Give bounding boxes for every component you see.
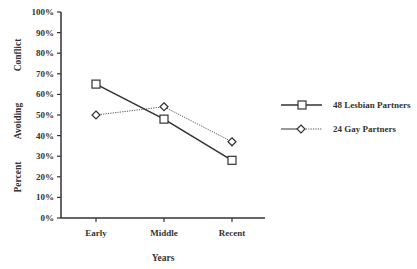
x-tick-label: Middle bbox=[150, 228, 178, 238]
line-chart: 0%10%20%30%40%50%60%70%80%90%100% EarlyM… bbox=[0, 0, 417, 269]
y-tick-label: 90% bbox=[36, 28, 54, 38]
diamond-marker-icon bbox=[228, 138, 236, 146]
y-axis-title-part-3: Conflict bbox=[13, 38, 23, 72]
diamond-marker-icon bbox=[160, 103, 168, 111]
square-marker-icon bbox=[160, 115, 168, 123]
y-tick-label: 20% bbox=[36, 172, 54, 182]
y-tick-label: 70% bbox=[36, 69, 54, 79]
y-tick-label: 100% bbox=[32, 7, 55, 17]
y-ticks: 0%10%20%30%40%50%60%70%80%90%100% bbox=[32, 7, 62, 223]
y-tick-label: 50% bbox=[36, 110, 54, 120]
y-axis-title-part-2: Avoiding bbox=[13, 103, 23, 140]
x-tick-label: Recent bbox=[219, 228, 246, 238]
diamond-marker-icon bbox=[297, 125, 305, 133]
x-tick-label: Early bbox=[85, 228, 107, 238]
legend-label-gay: 24 Gay Partners bbox=[333, 124, 396, 134]
diamond-marker-icon bbox=[92, 111, 100, 119]
x-ticks: EarlyMiddleRecent bbox=[85, 218, 245, 238]
y-tick-label: 30% bbox=[36, 151, 54, 161]
y-tick-label: 0% bbox=[41, 213, 55, 223]
y-tick-label: 60% bbox=[36, 89, 54, 99]
series-line-gay bbox=[96, 107, 232, 142]
square-marker-icon bbox=[228, 156, 236, 164]
y-tick-label: 40% bbox=[36, 131, 54, 141]
legend-label-lesbian: 48 Lesbian Partners bbox=[333, 100, 411, 110]
legend: 48 Lesbian Partners 24 Gay Partners bbox=[281, 100, 411, 134]
series-group bbox=[92, 80, 236, 164]
square-marker-icon bbox=[92, 80, 100, 88]
y-tick-label: 80% bbox=[36, 48, 54, 58]
x-axis-title: Years bbox=[152, 253, 175, 263]
legend-item-gay: 24 Gay Partners bbox=[281, 124, 396, 134]
y-axis-title-part-1: Percent bbox=[13, 161, 23, 193]
legend-item-lesbian: 48 Lesbian Partners bbox=[281, 100, 411, 110]
square-marker-icon bbox=[298, 101, 306, 109]
y-tick-label: 10% bbox=[36, 192, 54, 202]
